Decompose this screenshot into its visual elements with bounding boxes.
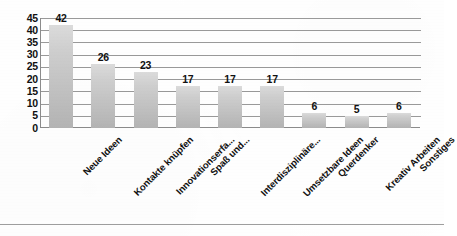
bar-group: 26 [82,18,124,128]
bar-group: 23 [124,18,166,128]
x-axis-categories: Neue IdeenKontakte knüpfenInnovationserf… [40,128,420,224]
y-tick-label: 45 [4,13,38,23]
bar-value-label: 6 [396,101,402,112]
y-tick-label: 30 [4,49,38,59]
bars-layer: 422623171717656 [40,18,420,128]
bar-group: 17 [167,18,209,128]
y-tick-label: 10 [4,98,38,108]
bar: 17 [218,86,242,128]
bar: 6 [387,113,411,128]
bottom-divider [0,224,444,225]
y-tick-label: 5 [4,110,38,120]
bar-group: 6 [378,18,420,128]
bar: 23 [134,72,158,128]
x-tick-label: Neue Ideen [81,134,124,177]
bar-value-label: 6 [312,101,318,112]
bar: 5 [345,116,369,128]
bar-value-label: 26 [98,52,109,63]
bar-value-label: 23 [140,60,151,71]
bar-group: 17 [209,18,251,128]
y-tick-label: 0 [4,123,38,133]
bar-value-label: 17 [267,74,278,85]
bar-value-label: 17 [182,74,193,85]
y-tick-label: 40 [4,25,38,35]
y-tick-label: 25 [4,61,38,71]
bar: 17 [176,86,200,128]
y-tick-label: 20 [4,74,38,84]
bar: 42 [49,25,73,128]
bar: 6 [302,113,326,128]
y-tick-label: 35 [4,37,38,47]
bar-value-label: 17 [224,74,235,85]
y-tick-label: 15 [4,86,38,96]
bar-group: 6 [293,18,335,128]
bar: 26 [91,64,115,128]
y-axis: 45 40 35 30 25 20 15 10 5 0 [0,0,38,236]
bar: 17 [260,86,284,128]
bar-group: 17 [251,18,293,128]
bar-value-label: 42 [55,13,66,24]
bar-group: 42 [40,18,82,128]
bar-value-label: 5 [354,104,360,115]
bar-group: 5 [336,18,378,128]
